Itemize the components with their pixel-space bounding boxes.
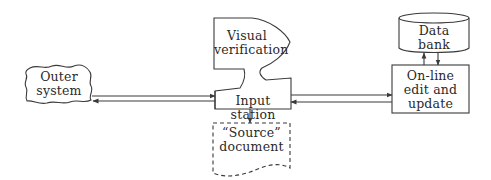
- source-document-line-2: document: [213, 140, 290, 154]
- data-bank-label: Data bank: [399, 24, 469, 52]
- visual-verification-line-1: Visual: [214, 29, 280, 43]
- data-bank-line-1: Data: [399, 24, 469, 38]
- outer-system-line-1: Outer: [28, 70, 90, 84]
- input-station-label: Input station: [215, 94, 291, 122]
- source-document-label: “Source” document: [213, 126, 290, 154]
- online-edit-label: On-line edit and update: [392, 69, 469, 111]
- visual-verification-line-2: verification: [214, 43, 280, 57]
- visual-verification-label: Visual verification: [214, 29, 280, 57]
- data-bank-line-2: bank: [399, 38, 469, 52]
- outer-system-line-2: system: [28, 84, 90, 98]
- online-edit-line-3: update: [392, 97, 469, 111]
- source-document-line-1: “Source”: [213, 126, 290, 140]
- online-edit-line-1: On-line: [392, 69, 469, 83]
- online-edit-line-2: edit and: [392, 83, 469, 97]
- outer-system-label: Outer system: [28, 70, 90, 98]
